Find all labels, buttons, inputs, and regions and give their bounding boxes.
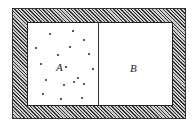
- gas-particle: [35, 47, 37, 49]
- gas-particle: [63, 84, 65, 86]
- gas-particle: [45, 79, 47, 81]
- gas-particle: [88, 53, 90, 55]
- gas-particle: [73, 81, 75, 83]
- gas-particle: [83, 39, 85, 41]
- gas-particle: [92, 68, 94, 70]
- gas-particle: [42, 93, 44, 95]
- gas-particle: [69, 46, 71, 48]
- gas-particle: [57, 54, 59, 56]
- chamber-b-label: B: [130, 63, 137, 74]
- gas-particle: [77, 77, 79, 79]
- gas-particle: [65, 66, 67, 68]
- chamber-a-label: A: [56, 62, 63, 73]
- gas-particle: [40, 63, 42, 65]
- gas-particle: [83, 83, 85, 85]
- partition: [98, 22, 99, 106]
- gas-particle: [49, 33, 51, 35]
- gas-particle: [72, 30, 74, 32]
- gas-particle: [60, 98, 62, 100]
- gas-particle: [81, 97, 83, 99]
